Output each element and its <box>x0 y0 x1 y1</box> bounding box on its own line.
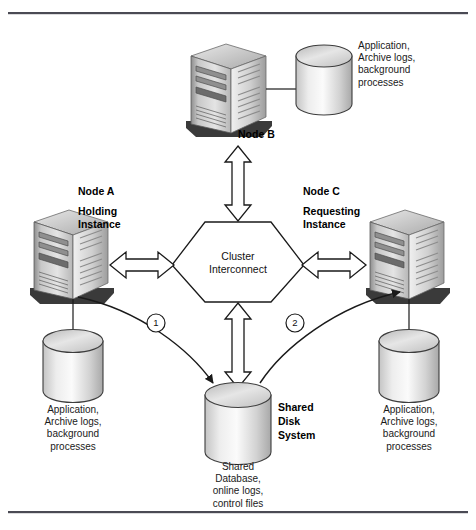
server-node-b <box>186 44 272 137</box>
node-c-role-label: Requesting Instance <box>303 205 360 231</box>
diagram-canvas: Application, Archive logs, background pr… <box>0 0 476 530</box>
arrow-node-b-interconnect <box>225 146 251 221</box>
db-caption-node-a: Application, Archive logs, background pr… <box>13 404 133 453</box>
db-caption-node-c: Application, Archive logs, background pr… <box>349 404 469 453</box>
shared-disk-caption: Shared Database, online logs, control fi… <box>178 461 298 510</box>
cylinder-node-b <box>296 45 352 115</box>
interconnect-label-line2: Interconnect <box>188 263 288 276</box>
node-c-label: Node C <box>303 185 340 198</box>
db-caption-node-b: Application, Archive logs, background pr… <box>358 40 470 89</box>
interconnect-label-line1: Cluster <box>188 250 288 263</box>
shared-disk-title: Shared Disk System <box>278 400 315 443</box>
node-b-label: Node B <box>238 128 275 141</box>
flow-marker-2-label: 2 <box>285 317 305 329</box>
arrow-interconnect-shared-disk <box>225 303 251 388</box>
node-a-label: Node A <box>78 185 114 198</box>
arrow-node-a-interconnect <box>110 252 174 278</box>
cylinder-node-c <box>379 330 439 403</box>
arrow-node-c-interconnect <box>302 252 366 278</box>
flow-marker-1-label: 1 <box>146 317 166 329</box>
node-a-role-label: Holding Instance <box>78 205 121 231</box>
cylinder-node-a <box>43 330 103 403</box>
server-node-c <box>366 210 450 304</box>
cylinder-shared-disk <box>205 383 271 465</box>
